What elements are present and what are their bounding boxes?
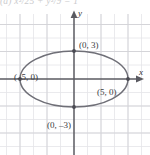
x-axis-label: x	[139, 68, 143, 77]
point-label-left: (–5, 0)	[14, 73, 38, 82]
point-label-top: (0, 3)	[79, 41, 99, 50]
ellipse-figure: (d) x²/25 + y²/9 = 1	[0, 0, 150, 155]
y-axis-label: y	[78, 9, 82, 18]
vertex-dot-top	[72, 49, 76, 53]
point-label-right: (5, 0)	[97, 88, 117, 97]
point-label-bottom: (0, –3)	[47, 121, 71, 130]
vertex-dot-bottom	[72, 105, 76, 109]
vertex-dot-right	[126, 77, 130, 81]
